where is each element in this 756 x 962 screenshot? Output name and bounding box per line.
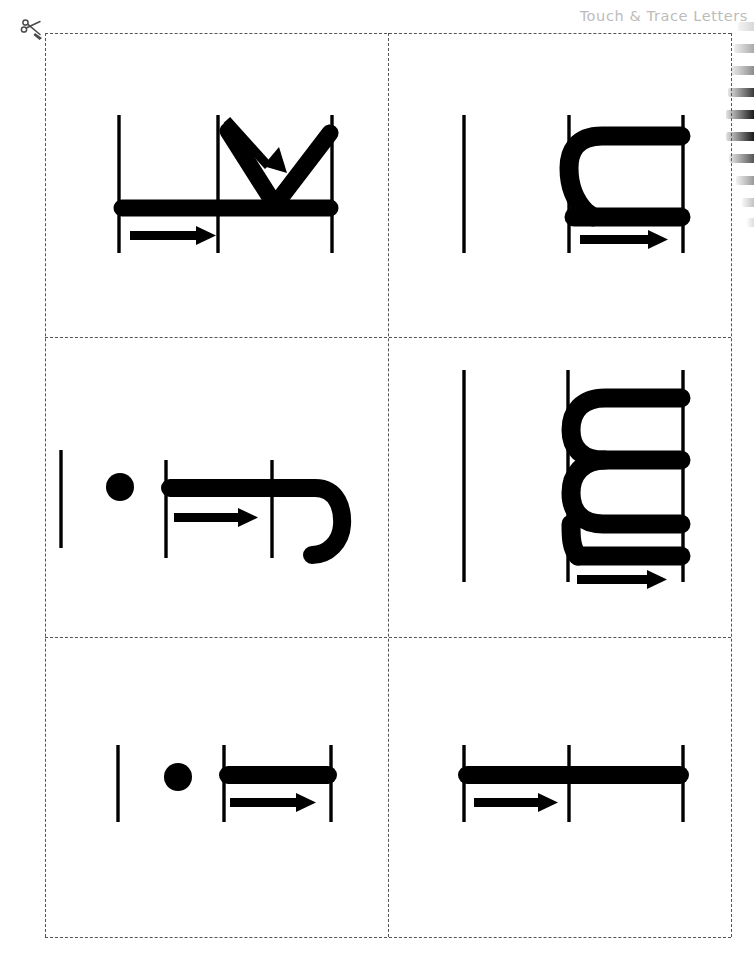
letter-glyph-w xyxy=(122,131,330,208)
arrow-right-baseline-icon xyxy=(577,570,667,589)
letter-card-f[interactable] xyxy=(50,430,350,590)
arrow-right-baseline-icon xyxy=(580,230,668,249)
cut-line-right xyxy=(731,33,732,937)
arrow-right-baseline-icon xyxy=(130,226,216,245)
letter-card-t[interactable] xyxy=(450,730,700,840)
letter-card-n[interactable] xyxy=(450,100,700,270)
arrow-right-crossbar-icon xyxy=(174,508,258,527)
letter-card-i[interactable] xyxy=(100,730,350,840)
letter-card-w[interactable] xyxy=(100,100,350,270)
cut-line-bottom xyxy=(45,937,731,938)
letter-dot-f xyxy=(106,473,134,501)
cut-line-left xyxy=(45,33,46,937)
scissors-icon xyxy=(20,18,46,44)
letter-glyph-m xyxy=(571,398,681,556)
letter-dot-i xyxy=(164,763,192,791)
letter-glyph-n xyxy=(569,136,681,217)
arrow-right-baseline-icon xyxy=(474,793,558,812)
arrow-right-baseline-icon xyxy=(230,793,316,812)
letter-card-m[interactable] xyxy=(440,360,700,590)
cut-line-center xyxy=(388,33,389,937)
